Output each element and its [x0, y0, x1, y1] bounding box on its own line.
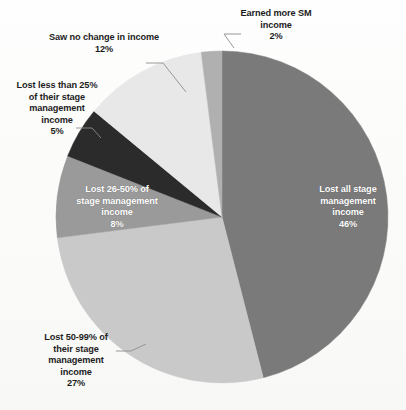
- slice-label-lost-all: Lost all stage management income 46%: [296, 184, 400, 230]
- chart-page: Earned more SM income 2% Saw no change i…: [0, 0, 406, 410]
- slice-label-lost-26-50: Lost 26-50% of stage management income 8…: [52, 184, 182, 230]
- slice-label-lost-less-than-25: Lost less than 25% of their stage manage…: [2, 80, 112, 138]
- slice-label-lost-50-99: Lost 50-99% of their stage management in…: [20, 332, 132, 390]
- slice-label-earned-more: Earned more SM income 2%: [222, 8, 330, 43]
- slice-label-no-change: Saw no change in income 12%: [22, 32, 186, 55]
